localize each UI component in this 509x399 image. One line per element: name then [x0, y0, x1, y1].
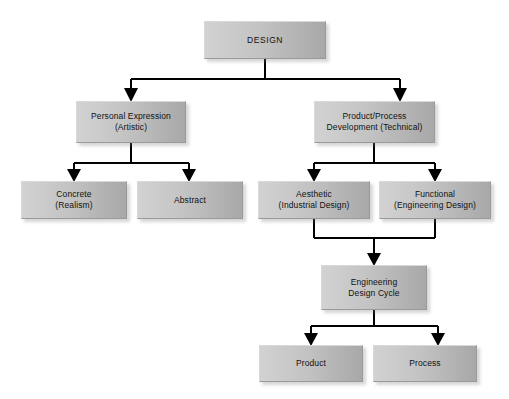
node-personal-expression[interactable]: Personal Expression (Artistic): [76, 101, 186, 143]
node-personal-expression-label: Personal Expression (Artistic): [88, 111, 174, 133]
node-concrete-label: Concrete (Realism): [52, 189, 95, 211]
design-taxonomy-diagram: DESIGN Personal Expression (Artistic) Pr…: [0, 0, 509, 399]
node-design[interactable]: DESIGN: [204, 21, 326, 59]
node-engineering-design-cycle[interactable]: Engineering Design Cycle: [321, 265, 427, 310]
node-product-process-development-label: Product/Process Development (Technical): [324, 111, 426, 133]
node-process[interactable]: Process: [373, 345, 477, 382]
node-aesthetic-label: Aesthetic (Industrial Design): [276, 189, 353, 211]
node-functional-label: Functional (Engineering Design): [391, 189, 479, 211]
node-product-process-development[interactable]: Product/Process Development (Technical): [314, 101, 435, 143]
node-design-label: DESIGN: [244, 35, 286, 46]
node-product-label: Product: [293, 358, 329, 369]
node-concrete[interactable]: Concrete (Realism): [21, 181, 127, 219]
node-abstract[interactable]: Abstract: [137, 181, 243, 219]
node-process-label: Process: [406, 358, 443, 369]
arrowhead-to-product-process: [393, 88, 407, 102]
node-engineering-design-cycle-label: Engineering Design Cycle: [345, 277, 402, 299]
node-functional[interactable]: Functional (Engineering Design): [379, 181, 491, 219]
node-aesthetic[interactable]: Aesthetic (Industrial Design): [258, 181, 370, 219]
node-product[interactable]: Product: [259, 345, 363, 382]
node-abstract-label: Abstract: [171, 195, 209, 206]
arrowhead-to-personal-expression: [124, 88, 138, 102]
